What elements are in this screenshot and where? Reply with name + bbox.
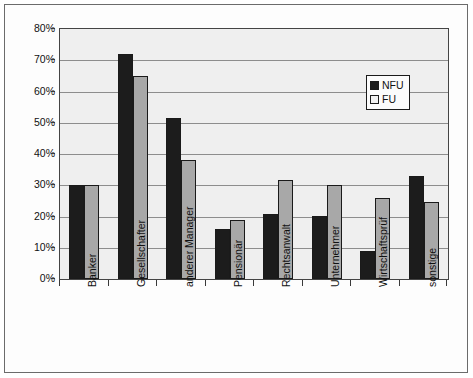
- x-axis-category-label: sonstige: [427, 248, 438, 287]
- x-axis-category-label: Pensionär: [233, 240, 244, 287]
- y-axis-tick: [51, 59, 55, 60]
- y-axis-tick-label: 70%: [11, 54, 55, 65]
- x-axis-tick: [253, 280, 254, 286]
- bar-group: [60, 29, 448, 279]
- x-axis-labels: BankerGesellschafteranderer ManagerPensi…: [59, 287, 449, 373]
- legend-item: FU: [370, 92, 404, 106]
- chart-legend: NFUFU: [366, 75, 410, 110]
- legend-item-label: NFU: [382, 80, 404, 91]
- x-axis-tick: [108, 280, 109, 286]
- chart-frame: 80%70%60%50%40%30%20%10%0% BankerGesells…: [4, 4, 468, 373]
- legend-item-label: FU: [382, 94, 396, 105]
- y-axis-tick: [51, 278, 55, 279]
- x-axis-category-label: Unternehmer: [330, 226, 341, 287]
- black-square-swatch: [370, 81, 379, 90]
- y-axis-tick: [51, 153, 55, 154]
- y-axis-tick: [51, 184, 55, 185]
- y-axis-tick: [51, 28, 55, 29]
- y-axis-tick-label: 80%: [11, 23, 55, 34]
- x-axis-tick: [399, 280, 400, 286]
- y-axis-tick: [51, 216, 55, 217]
- x-axis-ticks: [59, 280, 449, 287]
- x-axis-tick: [156, 280, 157, 286]
- legend-item: NFU: [370, 78, 404, 92]
- y-axis-tick: [51, 247, 55, 248]
- x-axis-tick: [350, 280, 351, 286]
- y-axis-tick-label: 50%: [11, 117, 55, 128]
- y-axis-tick-label: 10%: [11, 242, 55, 253]
- y-axis-tick: [51, 122, 55, 123]
- y-axis-tick: [51, 91, 55, 92]
- x-axis-tick: [446, 280, 447, 286]
- y-axis-tick-label: 60%: [11, 86, 55, 97]
- y-axis-tick-label: 30%: [11, 179, 55, 190]
- y-axis: 80%70%60%50%40%30%20%10%0%: [5, 28, 55, 280]
- y-axis-tick-label: 0%: [11, 273, 55, 284]
- x-axis-category-label: Banker: [87, 254, 98, 287]
- x-axis-tick: [59, 280, 60, 286]
- bar-nfu-7: [409, 176, 424, 279]
- x-axis-category-label: anderer Manager: [184, 206, 195, 287]
- x-axis-category-label: Gesellschafter: [136, 220, 147, 287]
- y-axis-tick-label: 40%: [11, 148, 55, 159]
- x-axis-category-label: Wirtschaftsprüf: [378, 217, 389, 287]
- x-axis-tick: [205, 280, 206, 286]
- y-axis-tick-label: 20%: [11, 211, 55, 222]
- x-axis-tick: [302, 280, 303, 286]
- plot-area: [59, 28, 449, 280]
- white-square-swatch: [370, 95, 379, 104]
- x-axis-category-label: Rechtsanwalt: [281, 224, 292, 287]
